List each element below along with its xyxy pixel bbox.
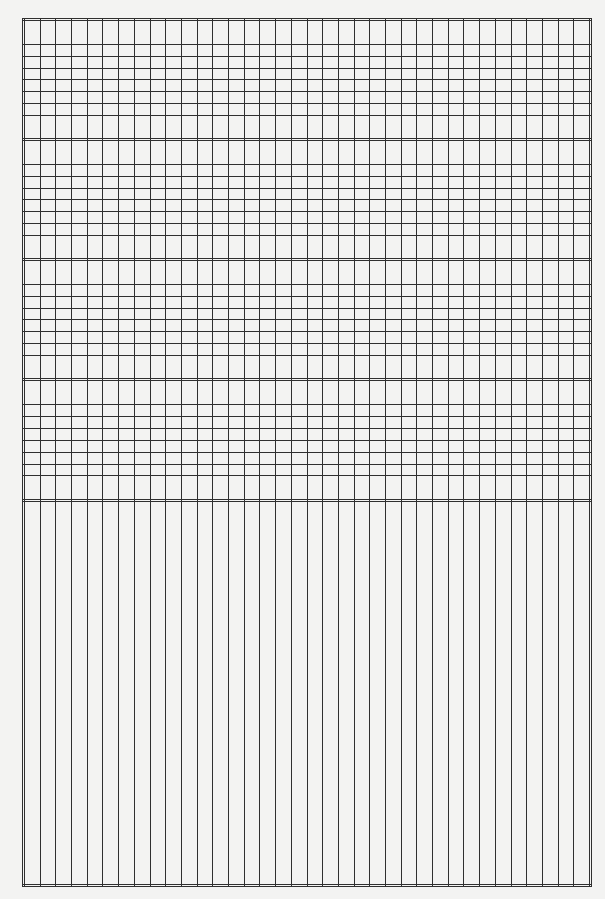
log-grid-line bbox=[22, 464, 592, 465]
log-grid-line bbox=[22, 343, 592, 344]
log-grid-line bbox=[22, 115, 592, 116]
log-grid-line bbox=[22, 452, 592, 453]
log-grid-line bbox=[22, 308, 592, 309]
log-grid-line bbox=[22, 103, 592, 104]
band-boundary-line bbox=[22, 258, 592, 259]
log-grid-line bbox=[22, 223, 592, 224]
log-grid-line bbox=[22, 44, 592, 45]
log-grid-line bbox=[22, 440, 592, 441]
log-grid-line bbox=[22, 331, 592, 332]
log-grid-line bbox=[22, 188, 592, 189]
log-grid-line bbox=[22, 68, 592, 69]
log-grid-line bbox=[22, 428, 592, 429]
log-grid-line bbox=[22, 176, 592, 177]
band-boundary-line bbox=[22, 499, 592, 500]
graph-paper-sheet bbox=[0, 0, 605, 899]
band-boundary-line bbox=[22, 260, 592, 261]
log-grid-line bbox=[22, 284, 592, 285]
log-grid-line bbox=[22, 475, 592, 476]
band-boundary-line bbox=[22, 140, 592, 141]
band-boundary-line bbox=[22, 138, 592, 139]
log-grid-line bbox=[22, 79, 592, 80]
log-grid-line bbox=[22, 416, 592, 417]
log-grid-line bbox=[22, 56, 592, 57]
band-boundary-line bbox=[22, 501, 592, 502]
log-grid-line bbox=[22, 235, 592, 236]
band-boundary-line bbox=[22, 380, 592, 381]
log-grid-line bbox=[22, 164, 592, 165]
log-grid-line bbox=[22, 211, 592, 212]
band-boundary-line bbox=[22, 378, 592, 379]
log-grid-line bbox=[22, 199, 592, 200]
log-grid-line bbox=[22, 91, 592, 92]
log-grid-line bbox=[22, 296, 592, 297]
log-grid-line bbox=[22, 319, 592, 320]
log-grid-line bbox=[22, 404, 592, 405]
log-grid-line bbox=[22, 355, 592, 356]
